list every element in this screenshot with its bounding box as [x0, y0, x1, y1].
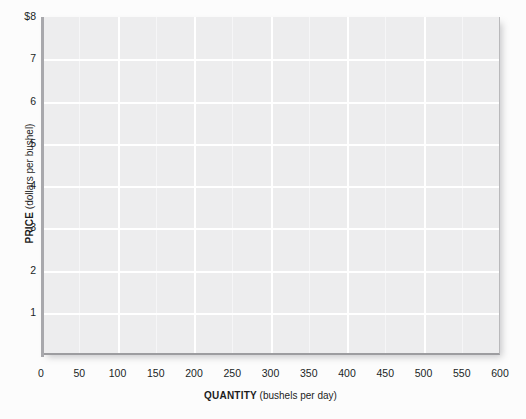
x-axis-tick: 250 [212, 368, 252, 380]
gridline-vertical [194, 17, 196, 353]
y-axis-title: PRICE (dollars per bushel) [24, 94, 35, 274]
x-axis-tick: 450 [365, 368, 405, 380]
x-axis-tick-label: 50 [59, 368, 99, 379]
y-axis-title-bold: PRICE [24, 212, 35, 244]
gridline-horizontal [41, 271, 499, 273]
y-axis-tick-label: 1 [30, 307, 36, 318]
x-axis-tick-label: 400 [327, 368, 367, 379]
gridline-horizontal [41, 59, 499, 61]
gridline-horizontal [41, 144, 499, 146]
x-axis-tick-label: 450 [365, 368, 405, 379]
x-axis-tick-label: 350 [289, 368, 329, 379]
y-axis-tick-label: 7 [30, 53, 36, 64]
x-axis-tick-label: 250 [212, 368, 252, 379]
x-axis-title-bold: QUANTITY [204, 390, 257, 401]
x-axis-tick: 400 [327, 368, 367, 380]
gridline-vertical-minor [79, 17, 80, 353]
gridline-horizontal [41, 102, 499, 104]
gridline-vertical-minor [156, 17, 157, 353]
x-axis-tick: 500 [404, 368, 444, 380]
x-axis-title: QUANTITY (bushels per day) [41, 390, 500, 401]
x-axis-tick-label: 300 [251, 368, 291, 379]
y-axis-tick: 1 [0, 307, 36, 318]
x-axis-tick: 100 [98, 368, 138, 380]
y-axis-tick-label: $8 [24, 11, 36, 22]
x-axis-tick-label: 200 [174, 368, 214, 379]
gridline-vertical-minor [232, 17, 233, 353]
x-axis-tick: 150 [136, 368, 176, 380]
x-axis-tick: 0 [21, 368, 61, 380]
y-axis-title-unit: (dollars per bushel) [24, 124, 35, 210]
x-axis-tick-label: 0 [21, 368, 61, 379]
x-axis-tick: 600 [480, 368, 520, 380]
x-axis-tick-label: 100 [98, 368, 138, 379]
x-axis-tick-label: 550 [442, 368, 482, 379]
gridline-vertical [424, 17, 426, 353]
y-axis-tick: $8 [0, 11, 36, 22]
x-axis-tick: 550 [442, 368, 482, 380]
x-axis-tick-label: 150 [136, 368, 176, 379]
plot-area [41, 17, 500, 355]
x-axis-tick: 200 [174, 368, 214, 380]
x-axis-tick-label: 500 [404, 368, 444, 379]
x-axis-title-unit: (bushels per day) [260, 390, 337, 401]
gridline-vertical [271, 17, 273, 353]
x-axis-tick: 350 [289, 368, 329, 380]
x-axis-tick-label: 600 [480, 368, 520, 379]
gridline-horizontal [41, 228, 499, 230]
gridline-vertical [347, 17, 349, 353]
y-axis-tick: 7 [0, 53, 36, 64]
y-axis-line [41, 17, 44, 357]
gridline-horizontal [41, 313, 499, 315]
x-axis-tick: 300 [251, 368, 291, 380]
gridline-vertical-minor [309, 17, 310, 353]
gridline-vertical [118, 17, 120, 353]
gridline-horizontal [41, 186, 499, 188]
gridline-vertical-minor [385, 17, 386, 353]
price-quantity-grid-chart: 1234567$8 050100150200250300350400450500… [0, 0, 526, 419]
gridline-vertical-minor [462, 17, 463, 353]
x-axis-tick: 50 [59, 368, 99, 380]
